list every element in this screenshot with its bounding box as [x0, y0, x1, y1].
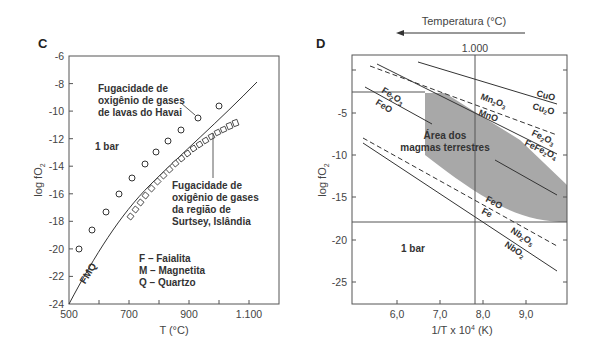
fmq-label: FMQ — [77, 261, 98, 286]
figure: C -6 -8 -10 -12 -14 -16 -18 -20 -22 -24 … — [0, 0, 598, 358]
x-axis-title-c: T (°C) — [159, 324, 188, 336]
x-tick-label: 7,0 — [433, 308, 448, 320]
panel-letter-d: D — [316, 36, 325, 51]
y-tick-label: -10 — [332, 149, 347, 161]
y-axis-c: -6 -8 -10 -12 -14 -16 -18 -20 -22 -24 lo… — [32, 50, 73, 310]
y-tick-label: -8 — [55, 78, 64, 90]
x-axis-d: 6,0 7,0 8,0 9,0 1/T x 104 (K) — [390, 300, 534, 336]
svg-text:de lavas do Havai: de lavas do Havai — [98, 107, 182, 118]
svg-text:Surtsey, Islândia: Surtsey, Islândia — [172, 216, 251, 227]
y-tick-label: -16 — [49, 188, 64, 200]
label-fe: Fe — [480, 206, 494, 220]
y-tick-label: -22 — [49, 270, 64, 282]
y-tick-label: -10 — [49, 105, 64, 117]
chart-d: D Temperatura (°C) 1.000 -5 -10 — [316, 15, 567, 336]
hawaii-annotation: Fugacidade de oxigênio de gases de lavas… — [98, 83, 195, 118]
x-axis-title-d: 1/T x 104 (K) — [431, 324, 492, 336]
pressure-label-c: 1 bar — [95, 141, 119, 152]
y-axis-title-d: log fO2 — [316, 163, 330, 196]
y-tick-label: -5 — [338, 107, 347, 119]
y-tick-label: -18 — [49, 215, 64, 227]
svg-text:oxigênio de gases: oxigênio de gases — [172, 192, 259, 203]
y-tick-label: -6 — [55, 50, 64, 62]
chart-c: C -6 -8 -10 -12 -14 -16 -18 -20 -22 -24 … — [32, 36, 279, 336]
x-tick-label: 9,0 — [519, 308, 534, 320]
y-tick-label: -12 — [49, 133, 64, 145]
temperature-title: Temperatura (°C) — [422, 15, 506, 27]
svg-text:Q – Quartzo: Q – Quartzo — [139, 277, 196, 288]
pressure-label-d: 1 bar — [401, 243, 425, 254]
svg-text:oxigênio de gases: oxigênio de gases — [98, 95, 185, 106]
label-cuo: CuO — [535, 88, 556, 103]
y-axis-title-c: log fO2 — [32, 163, 46, 196]
panel-letter-c: C — [38, 36, 48, 51]
top-tick-label: 1.000 — [462, 42, 488, 54]
y-tick-label: -25 — [332, 276, 347, 288]
x-tick-label: 900 — [180, 308, 198, 320]
svg-text:da região de: da região de — [172, 204, 231, 215]
y-tick-label: -14 — [49, 160, 64, 172]
svg-text:Fugacidade de: Fugacidade de — [172, 180, 242, 191]
magma-area-label-line1: Área dos — [424, 129, 467, 141]
hawaii-data-points — [76, 103, 222, 252]
x-tick-label: 500 — [60, 308, 78, 320]
x-tick-label: 8,0 — [476, 308, 491, 320]
y-tick-label: -20 — [332, 234, 347, 246]
label-cu2o: Cu2O — [531, 101, 555, 117]
magma-area-label-line2: magmas terrestres — [400, 142, 490, 153]
x-tick-label: 6,0 — [390, 308, 405, 320]
y-tick-label: -20 — [49, 243, 64, 255]
svg-text:F – Faialita: F – Faialita — [139, 253, 191, 264]
surtsey-annotation: Fugacidade de oxigênio de gases da regiã… — [172, 133, 259, 227]
legend-c: F – Faialita M – Magnetita Q – Quartzo — [139, 253, 206, 288]
svg-text:M – Magnetita: M – Magnetita — [139, 265, 206, 276]
x-tick-label: 700 — [120, 308, 138, 320]
arrow-left-icon — [396, 30, 404, 36]
y-tick-label: -15 — [332, 191, 347, 203]
svg-text:Fugacidade de: Fugacidade de — [98, 83, 168, 94]
x-axis-c: 500 700 900 1.100 T (°C) — [60, 300, 262, 336]
x-tick-label: 1.100 — [236, 308, 262, 320]
